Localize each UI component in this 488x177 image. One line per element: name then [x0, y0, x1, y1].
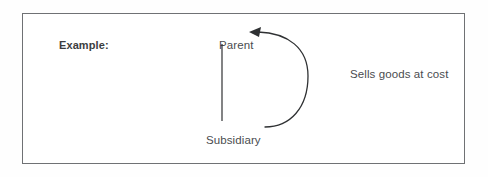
example-label: Example:: [59, 39, 109, 51]
screenshot-canvas: Example: Parent Subsidiary Sells goods a…: [0, 0, 488, 177]
node-label-subsidiary: Subsidiary: [206, 134, 261, 146]
arrow-annotation-label: Sells goods at cost: [350, 68, 448, 80]
example-box: Example: Parent Subsidiary Sells goods a…: [22, 13, 465, 164]
node-label-parent: Parent: [219, 39, 253, 51]
